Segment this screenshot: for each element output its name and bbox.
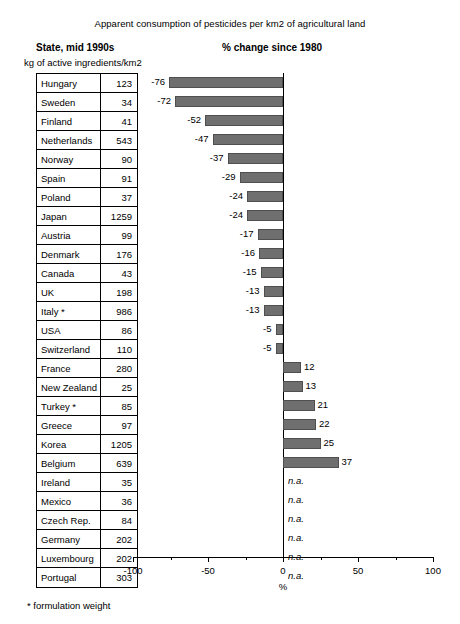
- bar-row: 25: [133, 434, 433, 453]
- bar-row: 22: [133, 415, 433, 434]
- table-cell-intensity: 35: [101, 473, 137, 491]
- bar-value-label: 37: [342, 456, 353, 468]
- table-cell-state: Italy *: [37, 302, 101, 320]
- bar-value-label: -13: [242, 285, 260, 297]
- table-row: Czech Rep.84: [37, 511, 137, 530]
- table-row: France280: [37, 359, 137, 378]
- table-cell-intensity: 25: [101, 378, 137, 396]
- table-row: New Zealand25: [37, 378, 137, 397]
- x-axis-tick-label: 0: [263, 565, 303, 576]
- bar: [283, 457, 339, 468]
- table-cell-intensity: 91: [101, 169, 137, 187]
- table-cell-intensity: 639: [101, 454, 137, 472]
- bar-value-label: 12: [304, 361, 315, 373]
- data-table: Hungary123Sweden34Finland41Netherlands54…: [36, 73, 138, 588]
- bar-value-label: -52: [183, 114, 201, 126]
- table-row: Finland41: [37, 112, 137, 131]
- bar-row: -15: [133, 263, 433, 282]
- table-row: Sweden34: [37, 93, 137, 112]
- bar-value-label: -24: [225, 190, 243, 202]
- x-axis-minor-tick: [396, 557, 397, 560]
- table-row: UK198: [37, 283, 137, 302]
- bar: [283, 438, 321, 449]
- bar: [213, 134, 284, 145]
- table-header-units: kg of active ingredients/km2: [24, 57, 142, 68]
- x-axis-tick: [358, 557, 359, 562]
- bar-row: n.a.: [133, 472, 433, 491]
- bar-value-label: -5: [254, 342, 272, 354]
- table-cell-intensity: 202: [101, 530, 137, 548]
- x-axis-tick-label: -50: [188, 565, 228, 576]
- table-cell-state: Sweden: [37, 93, 101, 111]
- bar-value-na: n.a.: [288, 532, 304, 544]
- x-axis-minor-tick: [246, 557, 247, 560]
- chart-title: Apparent consumption of pesticides per k…: [0, 18, 460, 29]
- table-cell-intensity: 176: [101, 245, 137, 263]
- bar-value-label: -15: [239, 266, 257, 278]
- bar-value-na: n.a.: [288, 494, 304, 506]
- table-cell-intensity: 41: [101, 112, 137, 130]
- table-cell-intensity: 36: [101, 492, 137, 510]
- bar: [283, 400, 315, 411]
- bar-value-label: -5: [254, 323, 272, 335]
- bar: [228, 153, 284, 164]
- bar-value-label: -47: [191, 133, 209, 145]
- table-cell-intensity: 198: [101, 283, 137, 301]
- table-row: Austria99: [37, 226, 137, 245]
- table-cell-intensity: 86: [101, 321, 137, 339]
- table-row: Netherlands543: [37, 131, 137, 150]
- table-cell-state: Norway: [37, 150, 101, 168]
- table-row: Japan1259: [37, 207, 137, 226]
- bar-row: -29: [133, 168, 433, 187]
- bar-row: -72: [133, 92, 433, 111]
- table-row: Denmark176: [37, 245, 137, 264]
- bar-row: -52: [133, 111, 433, 130]
- bar: [169, 77, 283, 88]
- bar-value-label: -16: [237, 247, 255, 259]
- bar: [283, 381, 303, 392]
- table-cell-state: Turkey *: [37, 397, 101, 415]
- x-axis-tick: [433, 557, 434, 562]
- bar-row: -37: [133, 149, 433, 168]
- table-cell-intensity: 99: [101, 226, 137, 244]
- table-cell-intensity: 123: [101, 74, 137, 92]
- bar-value-label: -37: [206, 152, 224, 164]
- bar-value-label: -76: [147, 76, 165, 88]
- table-row: Germany202: [37, 530, 137, 549]
- bar: [261, 267, 284, 278]
- bar-row: 12: [133, 358, 433, 377]
- bar: [276, 324, 284, 335]
- bar-row: -5: [133, 320, 433, 339]
- table-cell-state: Korea: [37, 435, 101, 453]
- table-cell-state: Japan: [37, 207, 101, 225]
- bar: [283, 362, 301, 373]
- table-cell-state: Ireland: [37, 473, 101, 491]
- bar: [175, 96, 283, 107]
- table-cell-intensity: 97: [101, 416, 137, 434]
- table-row: Italy *986: [37, 302, 137, 321]
- bar-row: n.a.: [133, 491, 433, 510]
- x-axis-minor-tick: [321, 557, 322, 560]
- bar-row: -76: [133, 73, 433, 92]
- table-row: Canada43: [37, 264, 137, 283]
- bar-value-label: -72: [153, 95, 171, 107]
- bar-row: n.a.: [133, 529, 433, 548]
- table-cell-intensity: 34: [101, 93, 137, 111]
- table-row: Belgium639: [37, 454, 137, 473]
- x-axis-tick-label: 100: [413, 565, 453, 576]
- bar: [247, 210, 283, 221]
- table-cell-intensity: 280: [101, 359, 137, 377]
- table-cell-state: UK: [37, 283, 101, 301]
- table-cell-intensity: 85: [101, 397, 137, 415]
- table-cell-intensity: 110: [101, 340, 137, 358]
- bar-row: -5: [133, 339, 433, 358]
- table-cell-state: Germany: [37, 530, 101, 548]
- table-cell-state: Poland: [37, 188, 101, 206]
- bar-row: -47: [133, 130, 433, 149]
- bar: [259, 248, 283, 259]
- table-row: Turkey *85: [37, 397, 137, 416]
- chart-footnote: * formulation weight: [27, 600, 110, 611]
- bar-value-label: 25: [324, 437, 335, 449]
- bar-value-label: 22: [319, 418, 330, 430]
- table-cell-state: Hungary: [37, 74, 101, 92]
